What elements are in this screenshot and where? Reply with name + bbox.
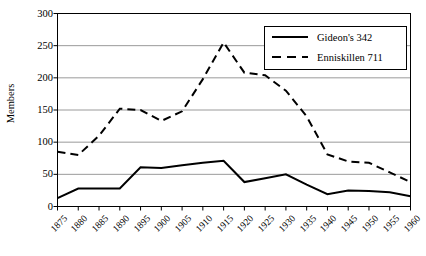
legend: Gideon's 342 Enniskillen 711 — [264, 26, 407, 70]
legend-entry-enniskillen: Enniskillen 711 — [265, 47, 406, 67]
legend-swatch-solid — [272, 31, 308, 43]
series-line-gideons — [58, 161, 411, 198]
legend-swatch-dashed — [272, 51, 308, 63]
legend-label-gideons: Gideon's 342 — [317, 32, 372, 43]
legend-label-enniskillen: Enniskillen 711 — [317, 52, 383, 63]
chart-container: Members 050100150200250300 1875188018851… — [0, 0, 426, 256]
legend-entry-gideons: Gideon's 342 — [265, 27, 406, 47]
